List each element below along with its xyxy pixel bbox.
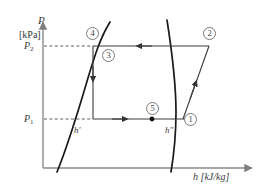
y-axis-variable-label: P [38, 15, 45, 26]
y-axis-unit-label: [kPa] [19, 30, 41, 40]
saturated-liquid-curve [57, 22, 110, 172]
y-tick-p1: P1 [24, 114, 34, 124]
y-tick-p1-sub: 1 [30, 118, 34, 126]
saturated-vapor-label: h" [165, 126, 173, 135]
saturated-liquid-label: h' [74, 126, 80, 135]
saturated-vapor-curve [167, 20, 176, 172]
y-tick-p2-sub: 2 [30, 45, 34, 53]
state-point-4: 4 [86, 27, 99, 40]
state-point-3: 3 [102, 49, 115, 62]
state-point-5: 5 [146, 102, 159, 115]
process-1-to-2-arrow [190, 82, 196, 99]
ph-diagram: P [kPa] h [kJ/kg] P2 P1 h' h" 4 3 2 5 1 [0, 0, 270, 191]
state-point-1: 1 [184, 113, 197, 126]
state-point-2: 2 [203, 27, 216, 40]
x-axis-label: h [kJ/kg] [193, 172, 229, 182]
state-5-point-marker [150, 117, 155, 122]
y-tick-p2: P2 [24, 41, 34, 51]
